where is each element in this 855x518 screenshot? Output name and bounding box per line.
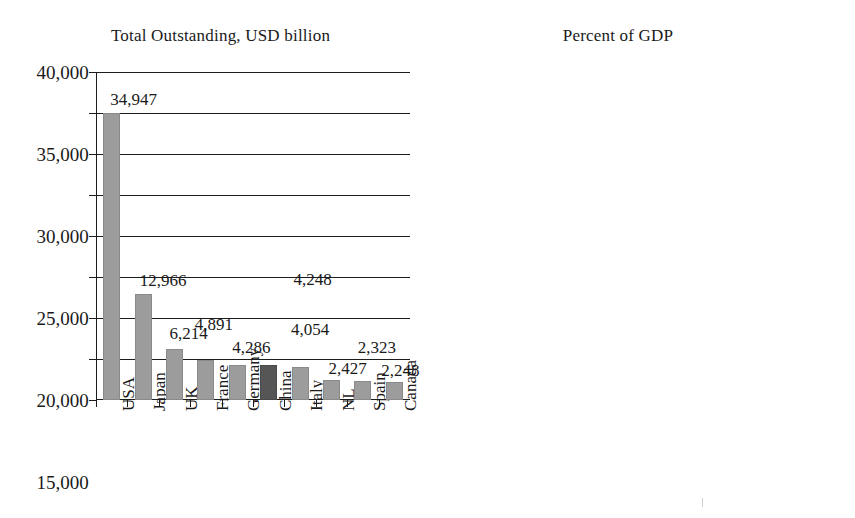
x-axis-tick xyxy=(96,400,97,407)
y-axis-tick-label: 15,000 xyxy=(37,472,89,494)
y-axis-tick: 35,000 xyxy=(89,113,96,114)
y-axis-tick-label: 40,000 xyxy=(37,62,89,84)
x-axis-tick xyxy=(127,400,128,407)
y-axis-tick: 10,000 xyxy=(89,318,96,319)
bar-usa[interactable] xyxy=(103,113,120,400)
x-axis-tick xyxy=(379,400,380,407)
y-axis-tick: 40,000 xyxy=(89,72,96,73)
y-axis-tick: 5,000 xyxy=(89,359,96,360)
bar-spain[interactable] xyxy=(354,381,371,400)
bar-value-label: 4,248 xyxy=(294,270,332,290)
scan-artifact xyxy=(702,498,703,507)
x-axis-tick xyxy=(316,400,317,407)
bar-china[interactable] xyxy=(260,365,277,400)
y-axis-tick: 30,000 xyxy=(89,154,96,155)
x-axis-tick xyxy=(284,400,285,407)
bar-value-label: 2,427 xyxy=(328,359,366,379)
gridline xyxy=(96,72,410,73)
gridline xyxy=(96,195,410,196)
x-axis-tick xyxy=(159,400,160,407)
bar-nl[interactable] xyxy=(323,380,340,400)
plot-area-left: 05,00010,00015,00020,00025,00030,00035,0… xyxy=(96,72,410,400)
x-axis-category-label: Canada xyxy=(401,360,421,411)
gridline xyxy=(96,236,410,237)
chart-panel-percent-of-gdp: Percent of GDP 050100150200250300276NL27… xyxy=(425,0,855,518)
bar-uk[interactable] xyxy=(166,349,183,400)
bar-france[interactable] xyxy=(197,360,214,400)
bar-value-label: 2,323 xyxy=(358,338,396,358)
figure-root: Total Outstanding, USD billion 05,00010,… xyxy=(0,0,855,518)
x-axis-tick xyxy=(347,400,348,407)
x-axis-tick xyxy=(253,400,254,407)
y-axis-tick: 20,000 xyxy=(89,236,96,237)
y-axis-tick: 0 xyxy=(89,400,96,401)
bar-value-label: 4,054 xyxy=(291,320,329,340)
y-axis-tick-label: 35,000 xyxy=(37,144,89,166)
chart-title-right: Percent of GDP xyxy=(403,26,833,46)
y-axis-tick-label: 20,000 xyxy=(37,390,89,412)
chart-panel-total-outstanding: Total Outstanding, USD billion 05,00010,… xyxy=(0,0,425,518)
gridline xyxy=(96,154,410,155)
bar-value-label: 34,947 xyxy=(110,90,157,110)
chart-title-left: Total Outstanding, USD billion xyxy=(8,26,433,46)
x-axis-tick xyxy=(190,400,191,407)
y-axis-tick: 25,000 xyxy=(89,195,96,196)
x-axis-tick xyxy=(222,400,223,407)
y-axis-tick: 15,000 xyxy=(89,277,96,278)
y-axis-tick-label: 30,000 xyxy=(37,226,89,248)
bar-value-label: 4,891 xyxy=(195,315,233,335)
y-axis-tick-label: 25,000 xyxy=(37,308,89,330)
bar-value-label: 12,966 xyxy=(140,271,187,291)
gridline xyxy=(96,113,410,114)
